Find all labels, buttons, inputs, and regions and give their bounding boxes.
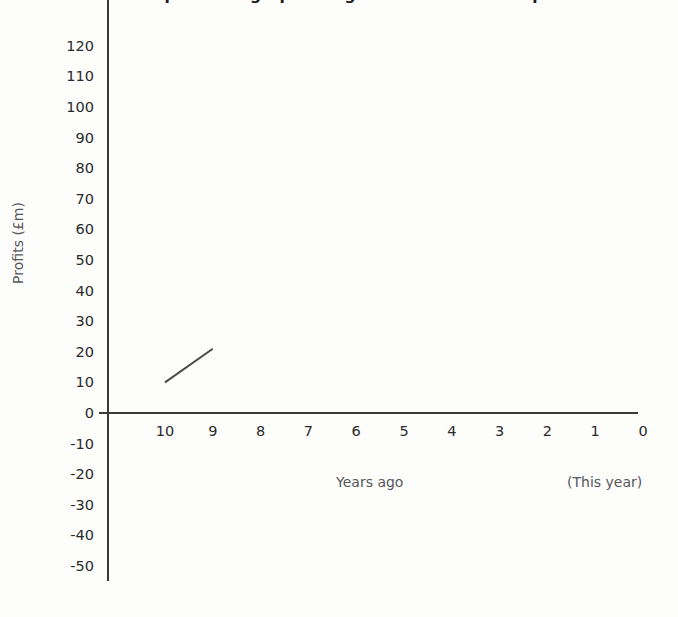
x-tick-1: 1 xyxy=(575,423,615,439)
y-tick-0: 0 xyxy=(34,406,94,421)
y-tick--50: -50 xyxy=(34,559,94,574)
y-tick-90: 90 xyxy=(34,130,94,145)
x-tick-5: 5 xyxy=(384,423,424,439)
x-tick-4: 4 xyxy=(432,423,472,439)
y-tick-50: 50 xyxy=(34,253,94,268)
x-axis-label: Years ago xyxy=(336,474,403,490)
y-axis-zero-tick xyxy=(99,412,108,414)
x-axis-this-year-note: (This year) xyxy=(567,474,642,490)
y-tick-120: 120 xyxy=(34,39,94,54)
y-tick-110: 110 xyxy=(34,69,94,84)
x-tick-8: 8 xyxy=(241,423,281,439)
x-tick-3: 3 xyxy=(480,423,520,439)
x-tick-10: 10 xyxy=(145,423,185,439)
x-axis-line xyxy=(107,412,638,414)
y-tick-70: 70 xyxy=(34,192,94,207)
y-tick-60: 60 xyxy=(34,222,94,237)
series-line-profits xyxy=(165,349,213,383)
y-tick--20: -20 xyxy=(34,467,94,482)
y-axis-line xyxy=(107,0,109,581)
y-tick-40: 40 xyxy=(34,283,94,298)
plot-area: 1201101009080706050403020100-10-20-30-40… xyxy=(0,0,678,617)
y-tick--40: -40 xyxy=(34,528,94,543)
y-tick--10: -10 xyxy=(34,436,94,451)
y-tick-10: 10 xyxy=(34,375,94,390)
x-tick-7: 7 xyxy=(288,423,328,439)
y-tick-80: 80 xyxy=(34,161,94,176)
y-tick-100: 100 xyxy=(34,100,94,115)
data-series-layer xyxy=(0,0,678,617)
y-tick-30: 30 xyxy=(34,314,94,329)
x-tick-9: 9 xyxy=(193,423,233,439)
x-tick-6: 6 xyxy=(336,423,376,439)
x-tick-2: 2 xyxy=(527,423,567,439)
chart-screenshot: Complete the graph using the information… xyxy=(0,0,678,617)
y-tick--30: -30 xyxy=(34,498,94,513)
y-tick-20: 20 xyxy=(34,345,94,360)
x-tick-0: 0 xyxy=(623,423,663,439)
